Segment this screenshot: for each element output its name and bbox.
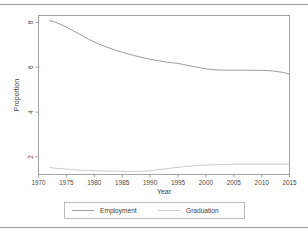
legend-label-graduation: Graduation bbox=[186, 207, 219, 214]
legend-label-employment: Employment bbox=[100, 207, 137, 215]
x-tick-label: 1970 bbox=[31, 179, 46, 186]
y-tick-label: 8 bbox=[27, 20, 34, 24]
y-tick-label: 2 bbox=[27, 155, 34, 159]
x-axis-ticks bbox=[39, 175, 290, 178]
figure-canvas: 8 6 4 2 Proportion 1970 1975 1980 1985 1… bbox=[0, 0, 308, 232]
x-tick-label: 1985 bbox=[115, 179, 130, 186]
x-axis-title: Year bbox=[157, 188, 172, 195]
line-chart: 8 6 4 2 Proportion 1970 1975 1980 1985 1… bbox=[0, 0, 308, 232]
x-tick-label: 2010 bbox=[255, 179, 270, 186]
x-tick-label: 2000 bbox=[199, 179, 214, 186]
x-tick-label: 2015 bbox=[282, 179, 297, 186]
x-tick-label: 2005 bbox=[227, 179, 242, 186]
series-group bbox=[50, 21, 290, 172]
y-axis-ticks bbox=[36, 23, 39, 157]
x-tick-label: 1975 bbox=[59, 179, 74, 186]
x-tick-label: 1995 bbox=[171, 179, 186, 186]
x-tick-label: 1980 bbox=[87, 179, 102, 186]
x-axis-tick-labels: 1970 1975 1980 1985 1990 1995 2000 2005 … bbox=[31, 179, 297, 186]
y-axis-tick-labels: 8 6 4 2 bbox=[27, 20, 34, 158]
y-tick-label: 6 bbox=[27, 65, 34, 69]
y-tick-label: 4 bbox=[27, 110, 34, 114]
x-tick-label: 1990 bbox=[143, 179, 158, 186]
y-axis-title: Proportion bbox=[13, 79, 21, 111]
series-line-employment bbox=[50, 21, 290, 74]
series-line-graduation bbox=[50, 164, 290, 171]
legend: Employment Graduation bbox=[65, 203, 245, 219]
plot-frame bbox=[39, 16, 290, 175]
